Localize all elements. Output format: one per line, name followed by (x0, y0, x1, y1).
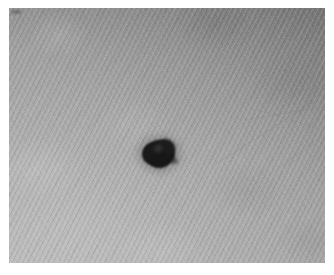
lesion-satellite-speck (171, 158, 178, 164)
lesion-lobe-bottom (150, 151, 169, 168)
photograph-plate (9, 8, 325, 263)
lesion-highlight-notch (154, 145, 162, 152)
image-canvas (0, 0, 334, 275)
pigmented-lesion (142, 138, 178, 170)
corner-artifact (12, 10, 21, 14)
caption-strip (0, 263, 334, 275)
